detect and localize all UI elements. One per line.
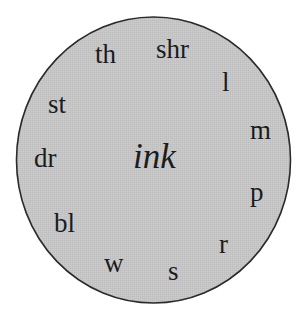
onset-label-bl: bl (54, 208, 75, 238)
onset-label-p: p (250, 177, 264, 207)
onset-label-th: th (95, 39, 117, 69)
center-rime-label: ink (133, 137, 177, 176)
onset-label-r: r (219, 229, 228, 259)
onset-label-dr: dr (34, 143, 57, 173)
onset-label-s: s (168, 256, 179, 286)
onset-label-m: m (250, 115, 271, 145)
word-wheel-diagram: ink th shr l m st dr p bl r w s (0, 0, 301, 323)
onset-label-w: w (104, 248, 124, 278)
onset-label-l: l (222, 67, 230, 97)
onset-label-shr: shr (156, 34, 189, 64)
onset-label-st: st (48, 89, 67, 119)
